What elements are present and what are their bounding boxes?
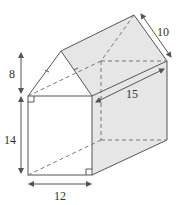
right-angle-markers: [28, 96, 92, 175]
roof-height-label: 8: [9, 67, 15, 81]
wall-height-label: 14: [4, 133, 16, 147]
length-label: 15: [126, 87, 138, 101]
roof-slope-label: 10: [157, 25, 169, 39]
house-prism-diagram: 8 14 12 15 10: [0, 0, 178, 205]
width-label: 12: [54, 189, 66, 203]
